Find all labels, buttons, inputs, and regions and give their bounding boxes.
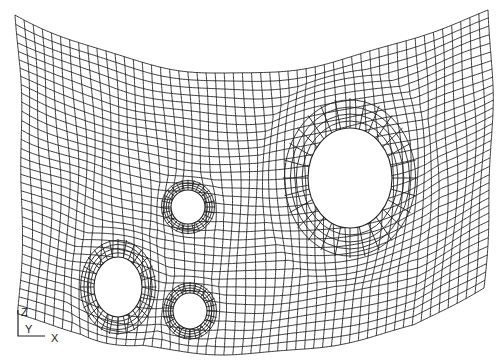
large-hole-spoke [321,223,332,250]
lower-middle-hole [173,293,207,329]
mesh-row-line [17,35,489,99]
upper-small-hole [171,190,205,224]
lower-left-hole [94,257,142,317]
mesh-row-line [20,264,487,331]
large-hole-spoke [308,115,324,138]
large-hole-spoke [321,106,332,133]
axis-label-z: Z [21,306,28,318]
mesh-column-line [15,15,23,314]
mesh-column-line [260,73,266,353]
mesh-column-line [484,10,493,288]
large-hole-spoke [376,217,392,240]
axis-label-x: X [51,332,59,344]
fe-mesh-diagram: Z Y X [0,0,501,364]
mesh-column-line [251,73,258,354]
mesh-row-line [18,43,490,107]
mesh-row-line [18,288,485,355]
mesh-holes [80,98,418,340]
mesh-column-line [242,73,250,354]
mesh-column-line [284,71,293,350]
axis-label-y: Y [25,323,33,335]
large-hole [308,128,392,228]
